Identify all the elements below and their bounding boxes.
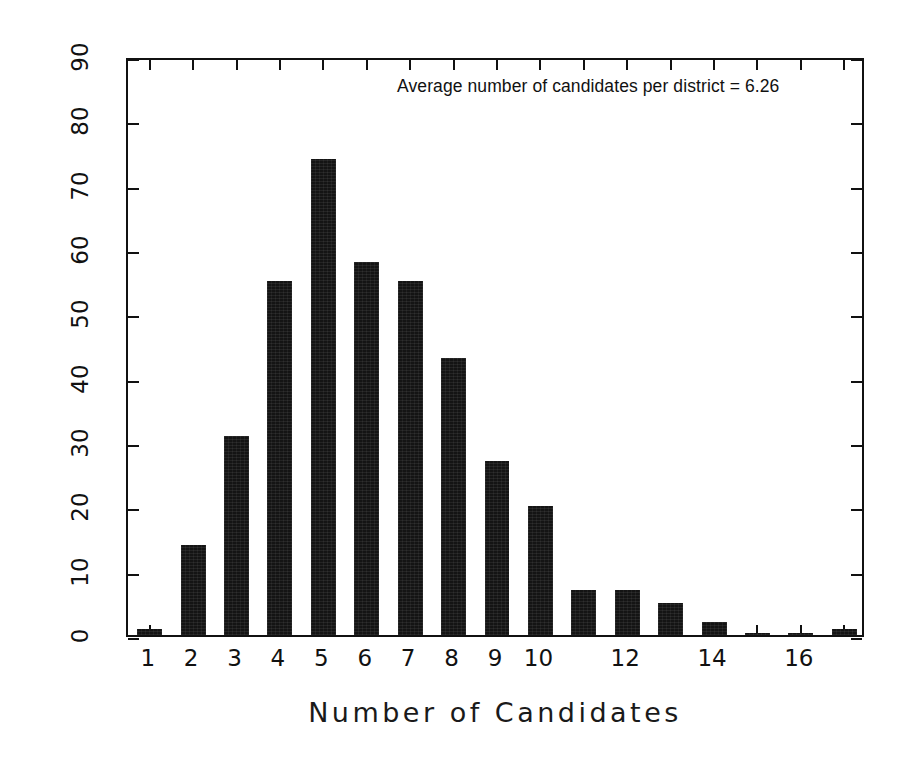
bar-5 [311,159,336,635]
x-axis-title: Number of Candidates [126,697,864,728]
x-tick-label-9: 9 [488,645,503,671]
bar-4 [267,281,292,635]
bar-1 [137,629,162,635]
x-tick-label-6: 6 [357,645,372,671]
bar-17 [832,629,857,635]
bar-2 [181,545,206,635]
x-tick-label-5: 5 [314,645,329,671]
plot-area: Average number of candidates per distric… [126,58,864,637]
x-tick-label-16: 16 [784,645,813,671]
y-tick-label-90: 90 [67,27,93,87]
x-tick-label-3: 3 [227,645,242,671]
y-tick-label-70: 70 [67,156,93,216]
x-tick-label-2: 2 [184,645,199,671]
y-tick-label-30: 30 [67,413,93,473]
x-tick-label-1: 1 [140,645,155,671]
y-tick-label-80: 80 [67,91,93,151]
bar-7 [398,281,423,635]
bar-6 [354,262,379,635]
histogram-figure: Number of Districts 0102030405060708090 … [0,0,914,769]
bar-16 [788,633,813,635]
bar-14 [702,622,727,635]
y-tick-label-10: 10 [67,542,93,602]
y-tick-label-40: 40 [67,349,93,409]
bar-3 [224,436,249,635]
x-tick-label-4: 4 [271,645,286,671]
bars-layer [128,60,862,635]
x-tick-label-10: 10 [524,645,553,671]
bar-8 [441,358,466,635]
y-tick-right-0 [851,638,862,640]
x-tick-label-14: 14 [697,645,726,671]
y-tick-label-0: 0 [67,606,93,666]
y-tick-label-60: 60 [67,220,93,280]
bar-12 [615,590,640,635]
y-tick-label-50: 50 [67,284,93,344]
x-tick-label-7: 7 [401,645,416,671]
y-tick-label-20: 20 [67,477,93,537]
x-tick-label-12: 12 [611,645,640,671]
bar-15 [745,633,770,635]
x-tick-label-8: 8 [444,645,459,671]
bar-13 [658,603,683,635]
bar-9 [485,461,510,635]
y-tick-0 [128,638,139,640]
bar-11 [571,590,596,635]
bar-10 [528,506,553,635]
